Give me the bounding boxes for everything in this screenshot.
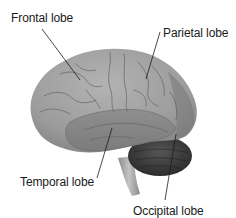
label-occipital-lobe: Occipital lobe [133,205,204,217]
label-parietal-lobe: Parietal lobe [163,27,228,39]
label-temporal-lobe: Temporal lobe [20,176,94,188]
label-frontal-lobe: Frontal lobe [11,12,73,24]
